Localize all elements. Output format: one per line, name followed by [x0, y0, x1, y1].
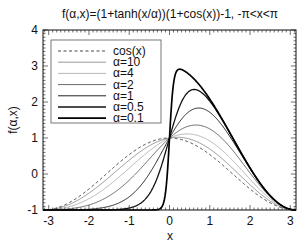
y-tick-label: 3 — [31, 59, 38, 73]
y-tick-label: -1 — [27, 203, 38, 217]
y-tick-label: 1 — [31, 131, 38, 145]
y-tick-label: 4 — [31, 23, 38, 37]
legend-label: α=0.1 — [113, 111, 144, 125]
x-tick-label: -2 — [84, 214, 95, 228]
x-tick-label: 2 — [247, 214, 254, 228]
x-tick-label: -3 — [43, 214, 54, 228]
y-tick-labels: -101234 — [27, 23, 38, 217]
x-axis-label: x — [167, 229, 173, 243]
x-tick-label: -1 — [124, 214, 135, 228]
x-tick-labels: -3-2-10123 — [43, 214, 294, 228]
x-tick-label: 1 — [206, 214, 213, 228]
x-tick-label: 0 — [166, 214, 173, 228]
chart: f(α,x)=(1+tanh(x/α))(1+cos(x))-1, -π<x<π… — [0, 0, 307, 249]
x-tick-label: 3 — [287, 214, 294, 228]
y-tick-label: 0 — [31, 167, 38, 181]
chart-title: f(α,x)=(1+tanh(x/α))(1+cos(x))-1, -π<x<π — [62, 7, 278, 21]
y-axis-label: f(α,x) — [6, 106, 20, 134]
y-tick-label: 2 — [31, 95, 38, 109]
legend: cos(x)α=10α=4α=2α=1α=0.5α=0.1 — [51, 40, 161, 125]
